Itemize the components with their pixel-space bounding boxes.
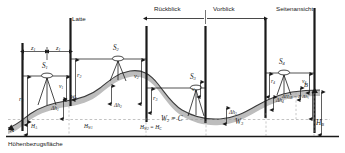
sideview-caption-label: Seitenansicht	[276, 6, 313, 12]
instrument-S4	[277, 70, 291, 95]
sight-lines	[22, 59, 315, 88]
distance-dimension-z	[23, 47, 69, 60]
rod-caption-label: Latte	[72, 16, 86, 22]
foresight-caption-label: Vorblick	[213, 6, 235, 12]
backsight-caption-label: Rückblick	[154, 6, 180, 12]
datum-caption-label: Höhenbezugsfläche	[8, 141, 63, 147]
diagram-canvas	[0, 0, 345, 153]
instrument-S3	[188, 85, 204, 116]
levelling-diagram-figure: Latte Rückblick Vorblick Seitenansicht H…	[0, 0, 345, 153]
levelling-rods	[23, 8, 315, 133]
instrument-S1	[38, 73, 56, 105]
